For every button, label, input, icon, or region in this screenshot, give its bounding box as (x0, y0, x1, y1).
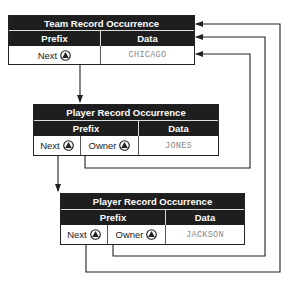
data-header: Data (101, 31, 194, 46)
record-title: Player Record Occurrence (34, 105, 218, 121)
data-header: Data (139, 121, 218, 136)
next-pointer: Next (34, 136, 81, 155)
player-record-occurrence-jackson: Player Record Occurrence Prefix Data Nex… (60, 193, 245, 245)
data-header: Data (166, 210, 244, 225)
prefix-header: Prefix (9, 31, 101, 46)
next-pointer: Next (61, 225, 108, 244)
next-pointer: Next (9, 46, 101, 64)
owner-pointer: Owner (81, 136, 139, 155)
prefix-header: Prefix (34, 121, 139, 136)
player-record-occurrence-jones: Player Record Occurrence Prefix Data Nex… (33, 104, 219, 156)
team-record-occurrence: Team Record Occurrence Prefix Data Next … (8, 15, 195, 65)
owner-pointer: Owner (108, 225, 166, 244)
pointer-triangle-icon (146, 229, 157, 240)
pointer-label: Owner (89, 140, 117, 151)
pointer-label: Next (40, 140, 60, 151)
data-value: JONES (139, 136, 218, 155)
pointer-triangle-icon (119, 140, 130, 151)
prefix-header: Prefix (61, 210, 166, 225)
data-value: JACKSON (166, 225, 244, 244)
pointer-triangle-icon (90, 229, 101, 240)
record-title: Player Record Occurrence (61, 194, 244, 210)
pointer-label: Owner (116, 229, 144, 240)
pointer-triangle-icon (63, 140, 74, 151)
pointer-label: Next (67, 229, 87, 240)
pointer-triangle-icon (60, 50, 71, 61)
record-title: Team Record Occurrence (9, 16, 194, 31)
pointer-label: Next (38, 50, 58, 61)
data-value: CHICAGO (101, 46, 194, 64)
